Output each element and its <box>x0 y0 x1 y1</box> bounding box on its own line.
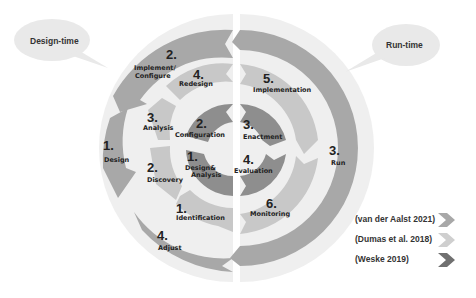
configure-label: Configure <box>135 72 171 80</box>
run-time-bubble: Run-time <box>345 24 440 72</box>
enactment-label: Enactment <box>243 133 282 141</box>
discovery-label: Discovery <box>147 176 184 184</box>
implement-label: Implement/ <box>134 64 176 72</box>
enactment-number: 3. <box>243 117 254 132</box>
design-number: 1. <box>103 138 114 153</box>
implementation-label: Implementation <box>253 86 312 94</box>
analysis-number: 3. <box>147 110 158 125</box>
adjust-label: Adjust <box>158 244 182 252</box>
legend-chevron-dumas-icon <box>438 233 455 247</box>
monitoring-label: Monitoring <box>250 210 290 218</box>
legend-label-dumas: (Dumas et al. 2018) <box>355 234 432 244</box>
legend-label-weske: (Weske 2019) <box>355 254 409 264</box>
legend: (van der Aalst 2021) (Dumas et al. 2018)… <box>355 213 455 267</box>
run-number: 3. <box>329 143 340 158</box>
implement-number: 2. <box>166 47 177 62</box>
analysis-inner-label: Analysis <box>191 171 222 179</box>
discovery-number: 2. <box>147 160 158 175</box>
redesign-label: Redesign <box>179 80 213 88</box>
configuration-label: Configuration <box>175 131 225 139</box>
analysis-label: Analysis <box>143 124 174 132</box>
bpm-lifecycle-diagram: Design-time Run-time 1. Design 2. Implem… <box>0 0 476 298</box>
run-time-label: Run-time <box>386 40 423 50</box>
design-time-label: Design-time <box>30 36 79 46</box>
legend-chevron-van-der-aalst-icon <box>438 213 455 227</box>
identification-label: Identification <box>176 214 225 222</box>
evaluation-number: 4. <box>243 152 254 167</box>
legend-chevron-weske-icon <box>438 253 455 267</box>
adjust-number: 4. <box>157 228 168 243</box>
legend-label-van-der-aalst: (van der Aalst 2021) <box>355 214 435 224</box>
evaluation-label: Evaluation <box>234 167 273 175</box>
design-time-bubble: Design-time <box>14 19 108 68</box>
run-label: Run <box>331 159 346 167</box>
design-analysis-number: 1. <box>187 149 198 164</box>
monitoring-number: 6. <box>266 196 277 211</box>
configuration-number: 2. <box>196 116 207 131</box>
design-label: Design <box>104 156 130 164</box>
implementation-number: 5. <box>263 71 274 86</box>
